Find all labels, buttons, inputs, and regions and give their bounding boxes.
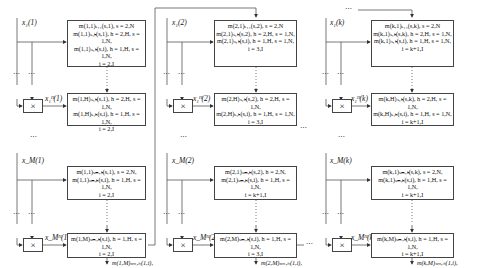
box-line: i = 3,I [216,118,295,126]
input-x1-k: x₁(k) [330,18,344,27]
box-line: m(2,M)ₛₘ,ₕ(s,i), h = 1,H, s = 1,N, [216,235,295,250]
box-line: m(2,H)ₛ₁ₕ(s,2), h = 2,H, s = 1,N, [216,95,295,110]
vdots: ⋯ [163,70,170,78]
box-line: m(k,M)ₛₘ,ₕ(s,i), h = 1,H, s = 1,N, [373,235,452,250]
box-col2-b: m(2,H)ₛ₁ₕ(s,2), h = 2,H, s = 1,N, m(2,H)… [214,93,297,126]
multiplier-col1-bottom: × [23,238,43,252]
box-line: i = 3,I [216,45,295,53]
vdots: ⋯ [322,70,329,78]
ellipsis: ⋯ [306,240,313,248]
ellipsis: ⋯ [30,133,37,141]
output-col2: m(2,M)ₛₘ,ₕ(1,i), [261,259,302,267]
multiplier-col2-top: × [173,99,193,113]
box-line: m(k,1)ₛₘ,ₕ(s,i), h = 1,H, s = 1,N, [373,176,452,191]
output-line: m(2,M)ₛₘ,ₕ(1,i), [261,259,302,267]
box-line: m(1,1)ₛ₁₁(s,1), s = 2,N [69,22,144,30]
box-line: i = 2,I [69,60,144,68]
box-line: m(2,1)ₛₘ,ₕ(s,2), h = 2,N, [216,168,295,176]
multiplier-colk-bottom: × [332,238,352,252]
multiplier-colk-top: × [332,99,352,113]
output-colk: m(k,M)ₛₘ,ₕ(1,i), [417,259,458,267]
box-line: m(k,1)ₛ₁₁(s,k), s = 2,N [373,22,452,30]
box-line: m(1,1)ₛ₁ₕ(s,1), h = 2,H, s = 1,N, [69,30,144,45]
box-line: m(1,H)ₛ₁ₕ(s,1), h = 2,H, s = 1,N, [69,95,144,110]
box-line: i = k+1,I [373,45,452,53]
ellipsis: ⋯ [180,133,187,141]
box-line: i = k+1,I [216,191,295,199]
box-line: m(1,1)ₛₘ,ₕ(s,1), s = 2,N, [69,168,144,176]
label-x1H-k: x₁ᴴ(k) [351,94,368,103]
vdots: ⋯ [28,210,35,218]
input-xM-1: x_M(1) [22,156,44,165]
box-line: i = k+1,I [373,250,452,258]
input-xM-k: x_M(k) [330,156,352,165]
vdots: ⋯ [163,210,170,218]
box-line: m(1,1)ₛₘ,ₕ(s,i), h = 1,H, s = 1,N, [69,176,144,191]
vdots: ⋯ [178,70,185,78]
output-line: m(k,M)ₛₘ,ₕ(1,i), [417,259,458,267]
box-col2-a: m(2,1)ₛ₁₁(s,2), s = 2,N m(2,1)ₛ₁ₕ(s,2), … [214,20,297,67]
input-x1-2: x₁(2) [172,18,187,27]
vdots: ⋯ [337,70,344,78]
box-col1-a: m(1,1)ₛ₁₁(s,1), s = 2,N m(1,1)ₛ₁ₕ(s,1), … [67,20,146,67]
label-x1H-1: x₁ᴴ(1) [45,94,62,103]
box-line: m(2,H)ₛ₁ₕ(s,i), h = 1,H, s = 1,N, [216,110,295,118]
vdots: ⋯ [13,70,20,78]
box-line: i = 2,I [69,250,144,258]
box-line: m(2,1)ₛₘ,ₕ(s,i), h = 1,H, s = 1,N, [216,176,295,191]
multiplier-col2-bottom: × [173,238,193,252]
box-colk-c: m(k,1)ₛₘ,ₕ(s,k), s = 2,N, m(k,1)ₛₘ,ₕ(s,i… [371,166,454,200]
multiplier-col1-top: × [23,99,43,113]
box-line: m(1,M)ₛₘ,ₕ(s,i), h = 1,H, s = 1,N, [69,235,144,250]
box-line: i = k+1,I [373,191,452,199]
box-col1-d: m(1,M)ₛₘ,ₕ(s,i), h = 1,H, s = 1,N, i = 2… [67,233,146,258]
box-line: m(k,1)ₛₘ,ₕ(s,k), s = 2,N, [373,168,452,176]
box-col2-d: m(2,M)ₛₘ,ₕ(s,i), h = 1,H, s = 1,N, i = 3… [214,233,297,258]
vdots: ⋯ [322,210,329,218]
ellipsis: ⋯ [338,133,345,141]
box-colk-d: m(k,M)ₛₘ,ₕ(s,i), h = 1,H, s = 1,N, i = k… [371,233,454,258]
box-line: m(k,1)ₛ₁ₕ(s,k), h = 2,H, s = 1,N, [373,30,452,38]
box-colk-a: m(k,1)ₛ₁₁(s,k), s = 2,N m(k,1)ₛ₁ₕ(s,k), … [371,20,454,67]
box-line: m(k,H)ₛ₁ₕ(s,i), h = 1,H, s = 1,N, [373,110,452,118]
box-col1-b: m(1,H)ₛ₁ₕ(s,1), h = 2,H, s = 1,N, m(1,H)… [67,93,146,126]
box-line: i = 3,I [216,250,295,258]
vdots: ⋯ [13,210,20,218]
box-line: m(1,H)ₛ₁ₕ(s,i), h = 1,H, s = 1,N, [69,110,144,125]
output-col1: m(1,M)ₛₘ,ₕ(1,i), [112,259,153,267]
output-line: m(1,M)ₛₘ,ₕ(1,i), [112,259,153,267]
vdots: ⋯ [178,210,185,218]
box-colk-b: m(k,H)ₛ₁ₕ(s,k), h = 2,H, s = 1,N, m(k,H)… [371,93,454,126]
box-line: m(1,1)ₛ₁ₕ(s,i), h = 1,H, s = 1,N, [69,45,144,60]
box-line: i = k+1,I [373,118,452,126]
box-line: i = 2,I [69,125,144,133]
label-x1H-2: x₁ᴴ(2) [193,94,210,103]
box-line: m(2,1)ₛ₁ₕ(s,i), h = 1,H, s = 1,N, [216,37,295,45]
diagram-canvas: x₁(1) m(1,1)ₛ₁₁(s,1), s = 2,N m(1,1)ₛ₁ₕ(… [0,0,478,268]
ellipsis: ⋯ [300,124,307,132]
box-line: m(k,1)ₛ₁ₕ(s,i), h = 1,H, s = 1,N, [373,37,452,45]
box-line: i = 2,I [69,191,144,199]
ellipsis: ⋯ [345,5,352,13]
box-line: m(2,1)ₛ₁₁(s,2), s = 2,N [216,22,295,30]
vdots: ⋯ [337,210,344,218]
box-line: m(k,H)ₛ₁ₕ(s,k), h = 2,H, s = 1,N, [373,95,452,110]
box-col2-c: m(2,1)ₛₘ,ₕ(s,2), h = 2,N, m(2,1)ₛₘ,ₕ(s,i… [214,166,297,200]
input-xM-2: x_M(2) [172,156,194,165]
input-x1-1: x₁(1) [22,18,37,27]
box-col1-c: m(1,1)ₛₘ,ₕ(s,1), s = 2,N, m(1,1)ₛₘ,ₕ(s,i… [67,166,146,200]
box-line: m(2,1)ₛ₁ₕ(s,2), h = 2,H, s = 1,N, [216,30,295,38]
vdots: ⋯ [28,70,35,78]
